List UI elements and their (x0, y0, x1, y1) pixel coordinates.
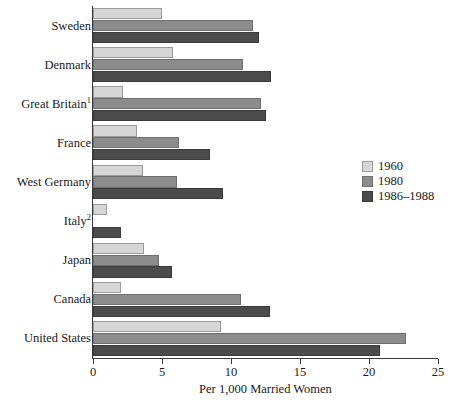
category-label-japan: Japan (0, 253, 97, 267)
x-tick-mark (438, 359, 439, 364)
category-label-italy: Italy2 (0, 214, 97, 228)
x-tick-label: 25 (418, 365, 453, 380)
legend-item-1986-1988: 1986–1988 (362, 189, 434, 203)
bar-sweden-1980 (93, 20, 253, 31)
x-tick-mark (93, 359, 94, 364)
bar-west-germany-1980 (93, 176, 177, 187)
bar-france-1960 (93, 125, 137, 136)
category-label-united-states: United States (0, 331, 97, 345)
x-tick-label: 15 (280, 365, 320, 380)
x-tick-label: 0 (73, 365, 113, 380)
bar-denmark-1986-1988 (93, 71, 271, 82)
legend-item-1980: 1980 (362, 174, 434, 188)
bar-denmark-1960 (93, 47, 173, 58)
legend-swatch-icon-1980 (362, 176, 373, 187)
bar-west-germany-1986-1988 (93, 188, 223, 199)
bar-united-states-1986-1988 (93, 345, 380, 356)
bar-united-states-1980 (93, 333, 406, 344)
x-tick-label: 20 (349, 365, 389, 380)
bar-sweden-1960 (93, 8, 162, 19)
bar-canada-1980 (93, 294, 241, 305)
category-label-canada: Canada (0, 292, 97, 306)
bar-denmark-1980 (93, 59, 243, 70)
x-tick-mark (369, 359, 370, 364)
legend-label-1986-1988: 1986–1988 (378, 189, 434, 203)
bar-great-britain-1980 (93, 98, 261, 109)
divorce-rate-bar-chart: 0510152025 SwedenDenmarkGreat Britain1Fr… (0, 0, 453, 403)
bar-great-britain-1960 (93, 86, 123, 97)
bar-sweden-1986-1988 (93, 32, 259, 43)
x-tick-mark (162, 359, 163, 364)
bar-france-1980 (93, 137, 179, 148)
bar-united-states-1960 (93, 321, 221, 332)
x-axis-line (92, 358, 438, 359)
category-label-great-britain: Great Britain1 (0, 97, 97, 111)
chart-legend: 1960 1980 1986–1988 (362, 159, 434, 204)
x-tick-label: 5 (142, 365, 182, 380)
legend-label-1980: 1980 (378, 174, 403, 188)
x-tick-mark (231, 359, 232, 364)
x-axis-title: Per 1,000 Married Women (93, 382, 438, 397)
bar-great-britain-1986-1988 (93, 110, 266, 121)
bar-italy-1986-1988 (93, 227, 121, 238)
bar-japan-1960 (93, 243, 144, 254)
category-label-denmark: Denmark (0, 58, 97, 72)
bar-japan-1986-1988 (93, 266, 172, 277)
legend-swatch-icon-1986-1988 (362, 191, 373, 202)
category-label-france: France (0, 136, 97, 150)
category-label-sweden: Sweden (0, 19, 97, 33)
bar-italy-1960 (93, 204, 107, 215)
bar-canada-1960 (93, 282, 121, 293)
legend-label-1960: 1960 (378, 159, 403, 173)
legend-swatch-icon-1960 (362, 161, 373, 172)
category-label-west-germany: West Germany (0, 175, 97, 189)
bar-france-1986-1988 (93, 149, 210, 160)
x-tick-label: 10 (211, 365, 251, 380)
bar-west-germany-1960 (93, 165, 143, 176)
legend-item-1960: 1960 (362, 159, 434, 173)
x-tick-mark (300, 359, 301, 364)
bar-canada-1986-1988 (93, 306, 270, 317)
bar-japan-1980 (93, 255, 159, 266)
